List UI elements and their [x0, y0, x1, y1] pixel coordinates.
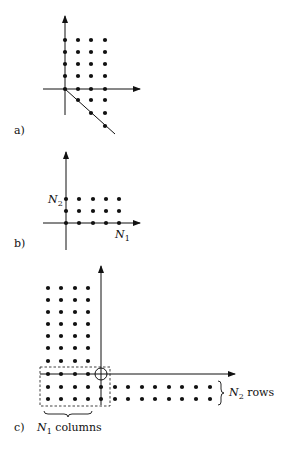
- lattice-dot: [167, 397, 171, 401]
- lattice-dot: [103, 74, 107, 78]
- lattice-dot: [167, 385, 171, 389]
- lattice-dot: [86, 310, 90, 314]
- panel-a-dots: [63, 38, 107, 128]
- panel-b-label: b): [14, 237, 25, 250]
- panel-a-label: a): [14, 124, 25, 137]
- lattice-dot: [77, 209, 81, 213]
- lattice-dot: [86, 372, 90, 376]
- lattice-dot: [59, 397, 63, 401]
- lattice-dot: [73, 346, 77, 350]
- lattice-dot: [117, 209, 121, 213]
- lattice-dot: [63, 50, 67, 54]
- lattice-dot: [73, 385, 77, 389]
- lattice-dot: [73, 310, 77, 314]
- lattice-dot: [86, 385, 90, 389]
- lattice-dot: [89, 38, 93, 42]
- columns-label: N1 columns: [36, 421, 102, 436]
- lattice-dot: [103, 111, 107, 115]
- lattice-dot: [63, 74, 67, 78]
- lattice-dot: [59, 346, 63, 350]
- lattice-dot: [104, 197, 108, 201]
- lattice-dot: [140, 385, 144, 389]
- lattice-dot: [59, 385, 63, 389]
- panel-a: a): [14, 16, 140, 137]
- lattice-dot: [63, 38, 67, 42]
- lattice-dot: [59, 359, 63, 363]
- lattice-dot: [117, 221, 121, 225]
- lattice-dot: [99, 397, 103, 401]
- lattice-dot: [86, 286, 90, 290]
- lattice-dot: [91, 197, 95, 201]
- lattice-dot: [76, 74, 80, 78]
- lattice-dot: [46, 346, 50, 350]
- lattice-dot: [194, 397, 198, 401]
- lattice-dot: [59, 310, 63, 314]
- lattice-dot: [99, 385, 103, 389]
- lattice-dot: [86, 322, 90, 326]
- lattice-dot: [73, 397, 77, 401]
- lattice-dot: [208, 397, 212, 401]
- lattice-dot: [103, 124, 107, 128]
- lattice-dot: [59, 334, 63, 338]
- lattice-dot: [64, 197, 68, 201]
- lattice-dot: [91, 221, 95, 225]
- lattice-dot: [73, 298, 77, 302]
- lattice-dot: [46, 322, 50, 326]
- lattice-dot: [104, 209, 108, 213]
- lattice-dot: [113, 397, 117, 401]
- lattice-dot: [46, 334, 50, 338]
- lattice-dot: [73, 372, 77, 376]
- lattice-dot: [153, 397, 157, 401]
- lattice-dot: [86, 298, 90, 302]
- lattice-dot: [76, 50, 80, 54]
- lattice-dot: [117, 197, 121, 201]
- lattice-dot: [208, 385, 212, 389]
- lattice-dot: [89, 98, 93, 102]
- lattice-dot: [113, 385, 117, 389]
- rows-label: N2 rows: [228, 386, 275, 401]
- panel-c-dots: [46, 286, 212, 401]
- lattice-dot: [89, 87, 93, 91]
- lattice-dot: [86, 334, 90, 338]
- lattice-dot: [64, 221, 68, 225]
- lattice-dot: [73, 334, 77, 338]
- lattice-dot: [103, 98, 107, 102]
- lattice-figure: a) N2 N1 b) N1 columns: [0, 0, 283, 449]
- lattice-dot: [59, 298, 63, 302]
- lattice-dot: [194, 385, 198, 389]
- lattice-dot: [46, 359, 50, 363]
- lattice-dot: [77, 221, 81, 225]
- lattice-dot: [86, 397, 90, 401]
- lattice-dot: [91, 209, 95, 213]
- panel-c: N1 columns N2 rows c): [14, 266, 275, 436]
- lattice-dot: [126, 385, 130, 389]
- lattice-dot: [73, 286, 77, 290]
- columns-brace: [44, 411, 92, 417]
- lattice-dot: [89, 50, 93, 54]
- lattice-dot: [46, 385, 50, 389]
- lattice-dot: [180, 385, 184, 389]
- lattice-dot: [46, 372, 50, 376]
- lattice-dot: [63, 87, 67, 91]
- lattice-dot: [73, 322, 77, 326]
- lattice-dot: [46, 397, 50, 401]
- panel-b: N2 N1 b): [14, 152, 140, 250]
- panel-b-dots: [64, 197, 121, 225]
- lattice-dot: [103, 62, 107, 66]
- lattice-dot: [86, 346, 90, 350]
- lattice-dot: [103, 50, 107, 54]
- lattice-dot: [89, 111, 93, 115]
- lattice-dot: [77, 197, 81, 201]
- lattice-dot: [76, 87, 80, 91]
- panel-b-n2-label: N2: [47, 193, 63, 208]
- lattice-dot: [76, 38, 80, 42]
- lattice-dot: [73, 359, 77, 363]
- panel-b-n1-label: N1: [114, 228, 130, 243]
- lattice-dot: [103, 87, 107, 91]
- lattice-dot: [86, 359, 90, 363]
- lattice-dot: [59, 322, 63, 326]
- lattice-dot: [59, 286, 63, 290]
- lattice-dot: [46, 298, 50, 302]
- lattice-dot: [46, 310, 50, 314]
- lattice-dot: [59, 372, 63, 376]
